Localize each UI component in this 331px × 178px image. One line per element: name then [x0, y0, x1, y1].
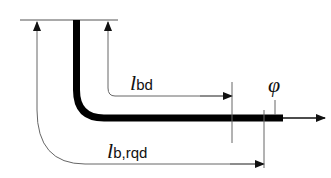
lbrqd-label: lb,rqd: [107, 138, 147, 164]
phi-label: φ: [268, 72, 280, 98]
lbd-label: lbd: [130, 70, 153, 96]
lbd-dimension-line: [108, 22, 232, 96]
lbd-label-sub: bd: [136, 76, 153, 93]
anchorage-diagram: lbd lb,rqd φ: [0, 0, 331, 178]
lbrqd-label-sub: b,rqd: [113, 144, 147, 161]
bent-bar: [77, 20, 284, 118]
diagram-canvas: [0, 0, 331, 178]
